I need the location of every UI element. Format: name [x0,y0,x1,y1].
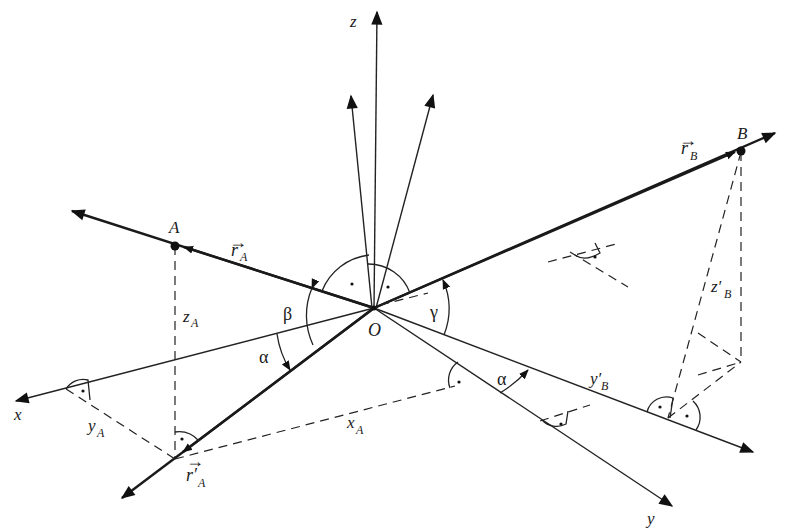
svg-text:A: A [190,316,199,330]
z-prime-B-label: z′ B [710,277,732,301]
svg-text:B: B [601,379,609,393]
svg-text:y′: y′ [588,369,602,388]
svg-text:B: B [724,287,732,301]
vector-r-prime-A [122,308,374,498]
svg-text:x: x [346,413,355,432]
alpha-left-label: α [259,347,269,367]
right-angle-symbol-floating [548,243,628,287]
origin-label: O [368,320,381,340]
coordinate-diagram: z x y O A B → r A → r B → r′ A z A y A x… [0,0,790,530]
y-axis-label: y [645,509,655,528]
point-B [737,147,746,156]
z-A-label: z A [182,307,199,330]
svg-text:B: B [690,149,698,163]
r-prime-A-label: → r′ A [186,451,206,490]
point-B-label: B [737,124,748,143]
origin-point [372,306,377,311]
svg-text:A: A [355,423,364,437]
r-A-label: → r A [229,232,248,264]
gamma-label: γ [429,302,438,322]
vector-r-A [72,211,374,308]
point-A [171,242,180,251]
x-axis-label: x [13,405,22,424]
svg-text:z: z [182,307,190,326]
y-A-label: y A [86,416,105,440]
z-axis [374,12,377,308]
z-axis-label: z [349,12,357,31]
svg-text:y: y [86,416,96,435]
y-axis [374,308,672,506]
svg-text:r′: r′ [186,465,198,485]
x-A-label: x A [346,413,364,437]
svg-text:A: A [197,476,206,490]
y-prime-axis [374,308,753,452]
projection-lines-B [668,152,741,418]
svg-text:A: A [96,426,105,440]
point-A-label: A [168,218,180,237]
svg-text:r: r [681,138,689,158]
alpha-right-label: α [497,369,507,389]
r-B-label: → r B [679,130,698,163]
y-prime-B-label: y′ B [588,369,609,393]
svg-text:z′: z′ [710,277,722,296]
svg-text:A: A [239,250,248,264]
normal-vectors [351,95,433,308]
y-foot-line [540,405,590,421]
beta-label: β [283,304,292,324]
svg-text:r: r [231,240,239,260]
